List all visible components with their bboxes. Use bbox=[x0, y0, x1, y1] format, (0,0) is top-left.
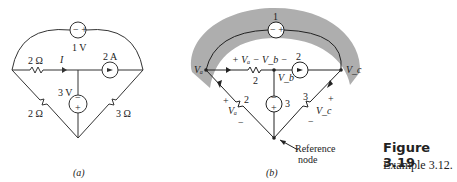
label-node-b: V_b bbox=[278, 72, 294, 83]
label-supernode-1: 1 bbox=[273, 11, 278, 22]
label-2a: 2 A bbox=[103, 51, 118, 62]
label-2ohm-top: 2 Ω bbox=[28, 55, 43, 66]
label-3ohm: 3 Ω bbox=[116, 108, 131, 119]
label-current-i: I bbox=[59, 54, 64, 65]
circuit-a bbox=[12, 22, 143, 138]
node-b-dot bbox=[272, 68, 276, 72]
polarity-label: − + bbox=[73, 24, 87, 35]
label-1v: 1 V bbox=[72, 42, 87, 53]
label-node-a: Vₐ bbox=[194, 64, 203, 75]
caption-b: (b) bbox=[266, 167, 278, 179]
label-source-3: 3 bbox=[285, 98, 290, 109]
plus-sign: + bbox=[75, 102, 81, 113]
caption-a: (a) bbox=[73, 167, 85, 179]
label-3v: 3 V bbox=[58, 87, 73, 98]
figure-subtitle: Example 3.12. bbox=[383, 158, 453, 173]
label-node: node bbox=[298, 154, 318, 165]
label-left-voltage: Vₐ bbox=[228, 105, 237, 116]
polarity-b: − + bbox=[270, 24, 284, 35]
reference-node-dot bbox=[272, 136, 276, 140]
label-reference: Reference bbox=[295, 143, 336, 154]
plus-right: + bbox=[328, 93, 334, 104]
node-a-dot bbox=[204, 68, 208, 72]
current-arrow-icon bbox=[62, 67, 67, 73]
minus-right: − bbox=[308, 116, 314, 127]
label-2ohm-bottom: 2 Ω bbox=[28, 108, 43, 119]
label-resistor-right: 3 bbox=[303, 91, 308, 102]
plus-sign-b: + bbox=[271, 102, 277, 113]
node-c-dot bbox=[339, 68, 343, 72]
reference-arrow-icon bbox=[280, 140, 286, 145]
label-resistor-middle: 2 bbox=[253, 75, 258, 86]
arrow-a-right-icon bbox=[226, 67, 231, 73]
label-source-2: 2 bbox=[296, 51, 301, 62]
label-right-voltage: V_c bbox=[316, 105, 332, 116]
label-node-c: V_c bbox=[346, 64, 362, 75]
minus-left: − bbox=[238, 117, 244, 128]
label-resistor-left: 2 bbox=[244, 94, 249, 105]
label-voltage-drop: + Vₐ − V_b − bbox=[232, 54, 287, 65]
